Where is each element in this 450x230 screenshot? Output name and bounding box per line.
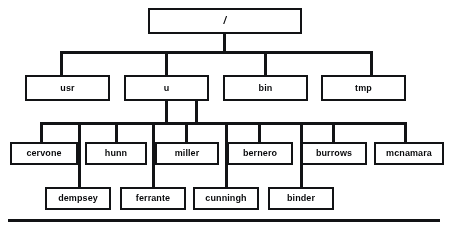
level3-drop-connector-1 [115, 122, 118, 142]
tree-node-label: usr [60, 83, 74, 92]
tree-node-label: binder [287, 194, 315, 203]
level4-drop-connector-0 [78, 122, 81, 187]
level2-bus-connector [60, 51, 372, 54]
tree-node-label: dempsey [58, 194, 98, 203]
level2-drop-connector-2 [264, 51, 267, 75]
level3-drop-connector-0 [40, 122, 43, 142]
level2-drop-connector-1 [165, 51, 168, 75]
directory-tree-diagram: /usrubintmpcervonehunnmillerberneroburro… [0, 0, 450, 230]
tree-node-dempsey[interactable]: dempsey [45, 187, 111, 210]
tree-node-label: bin [259, 83, 273, 92]
u-stem-connector-0 [165, 101, 168, 123]
baseline-rule [8, 219, 440, 222]
level2-drop-connector-0 [60, 51, 63, 75]
level3-drop-connector-4 [332, 122, 335, 142]
tree-node-usr[interactable]: usr [25, 75, 110, 101]
tree-node-u[interactable]: u [124, 75, 209, 101]
tree-node-label: u [164, 83, 170, 92]
tree-node-mcnamara[interactable]: mcnamara [374, 142, 444, 165]
tree-node-cunningh[interactable]: cunningh [193, 187, 259, 210]
tree-node-miller[interactable]: miller [155, 142, 219, 165]
level3-bus-connector [40, 122, 404, 125]
level3-drop-connector-5 [404, 122, 407, 142]
level3-drop-connector-2 [185, 122, 188, 142]
tree-node-label: burrows [316, 149, 352, 158]
tree-node-label: cervone [26, 149, 61, 158]
tree-node-root[interactable]: / [148, 8, 302, 34]
tree-node-binder[interactable]: binder [268, 187, 334, 210]
tree-node-label: ferrante [136, 194, 170, 203]
tree-node-label: miller [175, 149, 200, 158]
u-stem-connector-1 [195, 101, 198, 123]
tree-node-label: / [224, 16, 227, 26]
tree-node-ferrante[interactable]: ferrante [120, 187, 186, 210]
tree-node-label: bernero [243, 149, 277, 158]
root-stem-connector [223, 34, 226, 52]
tree-node-label: cunningh [205, 194, 246, 203]
tree-node-bin[interactable]: bin [223, 75, 308, 101]
tree-node-label: mcnamara [386, 149, 432, 158]
tree-node-bernero[interactable]: bernero [227, 142, 293, 165]
tree-node-burrows[interactable]: burrows [301, 142, 367, 165]
tree-node-label: tmp [355, 83, 372, 92]
level2-drop-connector-3 [370, 51, 373, 75]
tree-node-cervone[interactable]: cervone [10, 142, 78, 165]
tree-node-label: hunn [105, 149, 127, 158]
level3-drop-connector-3 [258, 122, 261, 142]
tree-node-hunn[interactable]: hunn [85, 142, 147, 165]
tree-node-tmp[interactable]: tmp [321, 75, 406, 101]
